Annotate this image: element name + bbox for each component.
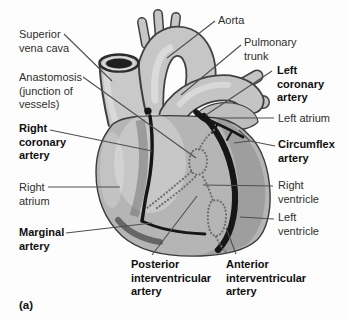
label-line: coronary	[19, 136, 66, 150]
label-line: vessels)	[19, 98, 82, 112]
label-line: Anastomosis	[19, 71, 82, 85]
label-line: (junction of	[19, 85, 82, 99]
label-superior-vena-cava: Superiorvena cava	[19, 28, 69, 55]
label-right-coronary-artery: Rightcoronaryartery	[19, 122, 66, 163]
label-marginal-artery: Marginalartery	[19, 226, 64, 253]
label-line: Right	[19, 181, 50, 195]
label-line: coronary	[277, 78, 324, 92]
label-right-atrium: Rightatrium	[19, 181, 50, 208]
panel-label: (a)	[19, 299, 33, 311]
label-line: artery	[131, 285, 211, 299]
label-line: artery	[226, 285, 306, 299]
label-line: Pulmonary	[244, 36, 297, 50]
label-aorta: Aorta	[218, 14, 244, 28]
label-anastomosis: Anastomosis(junction ofvessels)	[19, 71, 82, 112]
label-left-ventricle: Leftventricle	[278, 211, 319, 238]
label-line: vena cava	[19, 42, 69, 56]
label-line: artery	[19, 240, 64, 254]
label-line: atrium	[19, 195, 50, 209]
label-line: artery	[278, 152, 335, 166]
label-line: Circumflex	[278, 138, 335, 152]
superior-vena-cava-icon	[100, 55, 139, 123]
label-line: interventricular	[131, 272, 211, 286]
label-line: ventricle	[278, 225, 319, 239]
label-line: Superior	[19, 28, 69, 42]
label-line: Right	[19, 122, 66, 136]
label-line: trunk	[244, 50, 297, 64]
label-line: artery	[19, 149, 66, 163]
heart-diagram-figure: Superiorvena cavaAnastomosis(junction of…	[0, 0, 347, 319]
label-right-ventricle: Rightventricle	[278, 179, 319, 206]
label-line: Right	[278, 179, 319, 193]
label-line: Anterior	[226, 258, 306, 272]
label-line: Left	[278, 211, 319, 225]
label-left-coronary-artery: Leftcoronaryartery	[277, 64, 324, 105]
label-line: Left	[277, 64, 324, 78]
label-line: Posterior	[131, 258, 211, 272]
label-line: Left atrium	[278, 112, 330, 126]
label-line: artery	[277, 91, 324, 105]
label-anterior-interventricular-artery: Anteriorinterventricularartery	[226, 258, 306, 299]
label-posterior-interventricular-artery: Posteriorinterventricularartery	[131, 258, 211, 299]
label-circumflex-artery: Circumflexartery	[278, 138, 335, 165]
label-line: Marginal	[19, 226, 64, 240]
label-line: ventricle	[278, 193, 319, 207]
label-left-atrium: Left atrium	[278, 112, 330, 126]
label-line: interventricular	[226, 272, 306, 286]
label-pulmonary-trunk: Pulmonarytrunk	[244, 36, 297, 63]
label-line: Aorta	[218, 14, 244, 28]
right-coronary-origin-icon	[144, 107, 151, 114]
